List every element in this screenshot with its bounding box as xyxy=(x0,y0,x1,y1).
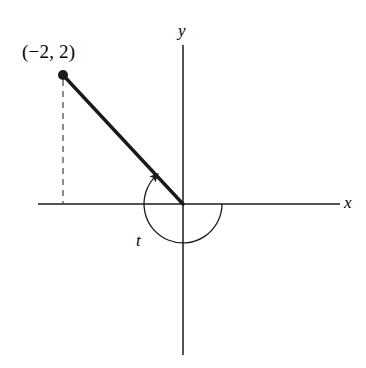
terminal-side-ray xyxy=(63,75,183,204)
y-axis-label: y xyxy=(178,22,186,39)
x-axis-label: x xyxy=(344,194,352,211)
angle-diagram-figure: (−2, 2) y x t xyxy=(0,0,366,368)
point-marker xyxy=(58,70,68,80)
angle-label: t xyxy=(136,232,141,249)
point-coordinate-label: (−2, 2) xyxy=(22,42,75,61)
